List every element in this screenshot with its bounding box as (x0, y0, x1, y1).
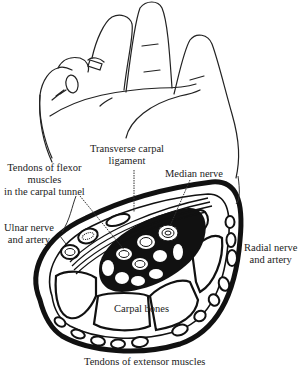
label-line: ligament (90, 155, 164, 167)
label-line: Ulnar nerve (4, 222, 54, 234)
label-line: in the carpal tunnel (4, 186, 85, 198)
median-nerve (158, 225, 178, 241)
label-flexor-tendons: Tendons of flexor muscles in the carpal … (4, 162, 85, 198)
label-line: Carpal bones (114, 303, 169, 315)
label-extensor-tendons: Tendons of extensor muscles (84, 356, 205, 368)
label-median-nerve: Median nerve (165, 168, 223, 180)
label-line: Tendons of flexor (4, 162, 85, 174)
label-line: muscles (4, 174, 85, 186)
label-transverse-carpal-ligament: Transverse carpal ligament (90, 143, 164, 167)
label-carpal-bones: Carpal bones (114, 303, 169, 315)
label-line: Radial nerve (244, 242, 297, 254)
label-line: and artery (244, 254, 297, 266)
label-line: Median nerve (165, 168, 223, 180)
label-ulnar-nerve-artery: Ulnar nerve and artery (4, 222, 54, 246)
label-line: Transverse carpal (90, 143, 164, 155)
label-line: and artery (4, 234, 54, 246)
label-radial-nerve-artery: Radial nerve and artery (244, 242, 297, 266)
carpal-tunnel (70, 198, 212, 292)
label-line: Tendons of extensor muscles (84, 356, 205, 368)
